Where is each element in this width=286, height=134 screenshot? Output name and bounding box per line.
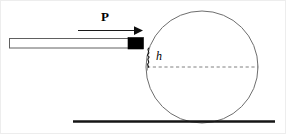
physics-diagram-figure: P h	[0, 0, 286, 134]
cue-stick-body	[10, 39, 129, 49]
diagram-canvas	[0, 0, 286, 134]
cue-stick-tip	[128, 38, 144, 50]
height-label: h	[156, 50, 162, 62]
force-label: P	[101, 10, 109, 23]
